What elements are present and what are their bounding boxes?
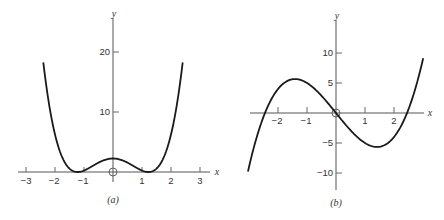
y-tick-label: 10	[99, 106, 110, 117]
x-tick-label: 3	[197, 175, 202, 186]
x-tick-label: −1	[78, 175, 89, 186]
y-axis-label: y	[334, 10, 340, 21]
x-tick-label: −3	[21, 175, 32, 186]
x-tick-label: 1	[139, 175, 144, 186]
y-tick-label: −5	[322, 137, 333, 148]
x-tick-label: −1	[301, 115, 312, 126]
figure: −3 −2 −1 1 2 3 10 20 y x (a) −2 −1 1 2 1…	[0, 0, 444, 220]
x-axis-label: x	[427, 107, 433, 118]
x-tick-label: −2	[49, 175, 60, 186]
x-tick-label: 2	[168, 175, 173, 186]
y-tick-label: 20	[99, 46, 110, 57]
y-tick-label: −10	[317, 167, 333, 178]
y-tick-label: 5	[328, 77, 333, 88]
y-tick-label: 10	[322, 47, 333, 58]
x-axis-label: x	[214, 166, 220, 177]
x-tick-label: −2	[272, 115, 283, 126]
panel-caption: (b)	[330, 197, 342, 209]
x-tick-label: 1	[362, 115, 367, 126]
x-tick-label: 2	[391, 115, 396, 126]
y-axis-label: y	[111, 8, 117, 19]
panel-caption: (a)	[107, 194, 119, 206]
panel-a: −3 −2 −1 1 2 3 10 20 y x (a)	[18, 8, 220, 206]
panel-b: −2 −1 1 2 10 5 −5 −10 y x (b)	[248, 10, 433, 209]
